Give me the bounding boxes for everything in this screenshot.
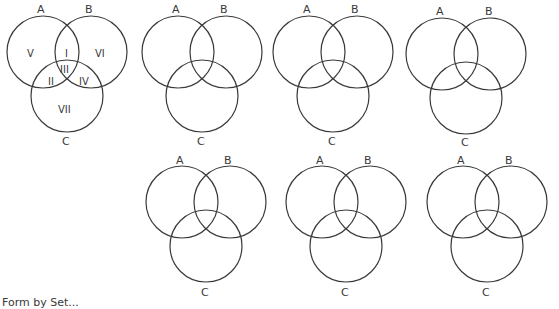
set-a-circle (273, 16, 345, 88)
set-c-label: C (197, 135, 205, 148)
set-a-label: A (457, 154, 465, 167)
set-a-circle (406, 18, 478, 90)
set-b-label: B (220, 3, 228, 16)
venn-svg: A B C (400, 150, 540, 300)
set-c-label: C (328, 135, 336, 148)
set-c-circle (310, 210, 382, 282)
set-b-circle (194, 166, 266, 238)
set-b-label: B (351, 3, 359, 16)
set-a-label: A (176, 154, 184, 167)
set-a-circle (146, 166, 218, 238)
set-c-label: C (461, 136, 469, 149)
venn-diagram-7: A B C (400, 150, 540, 300)
set-b-circle (334, 166, 406, 238)
venn-diagram-3: A B C (261, 0, 401, 150)
set-b-circle (475, 166, 547, 238)
region-label-ii: II (48, 76, 54, 87)
set-a-label: A (436, 5, 444, 18)
region-label-iv: IV (79, 76, 89, 87)
region-label-iii: III (60, 64, 69, 75)
set-a-label: A (37, 3, 45, 16)
venn-diagram-1: A B C I II III IV V VI VII (0, 0, 140, 150)
venn-diagram-4: A B C (396, 0, 536, 150)
set-b-circle (190, 16, 262, 88)
region-label-vi: VI (95, 48, 105, 59)
set-a-circle (7, 16, 79, 88)
set-a-circle (142, 16, 214, 88)
set-a-label: A (172, 3, 180, 16)
set-b-label: B (505, 154, 513, 167)
venn-diagram-2: A B C (130, 0, 270, 150)
venn-svg: A B C I II III IV V VI VII (0, 0, 140, 150)
set-b-label: B (485, 5, 493, 18)
set-b-circle (454, 18, 526, 90)
set-b-label: B (85, 3, 93, 16)
set-b-label: B (364, 154, 372, 167)
venn-svg: A B C (132, 150, 272, 300)
set-c-label: C (62, 135, 70, 148)
set-a-label: A (303, 3, 311, 16)
venn-svg: A B C (261, 0, 401, 150)
set-c-circle (451, 210, 523, 282)
set-c-label: C (201, 286, 209, 299)
set-b-circle (321, 16, 393, 88)
venn-svg: A B C (130, 0, 270, 150)
venn-svg: A B C (396, 0, 536, 150)
venn-diagram-6: A B C (262, 150, 402, 300)
caption-text: Form by Set... (2, 296, 79, 309)
set-c-label: C (341, 286, 349, 299)
set-c-circle (170, 210, 242, 282)
venn-diagram-5: A B C (132, 150, 272, 300)
set-c-circle (430, 62, 502, 134)
set-c-circle (297, 60, 369, 132)
set-b-label: B (224, 154, 232, 167)
set-a-circle (427, 166, 499, 238)
set-a-label: A (316, 154, 324, 167)
set-a-circle (286, 166, 358, 238)
set-c-label: C (482, 286, 490, 299)
set-c-circle (166, 60, 238, 132)
region-label-vii: VII (58, 104, 71, 115)
region-label-v: V (27, 48, 34, 59)
region-label-i: I (65, 48, 68, 59)
venn-svg: A B C (262, 150, 402, 300)
